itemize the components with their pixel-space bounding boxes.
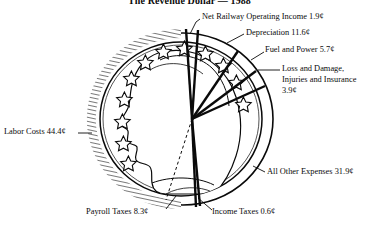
leader-depreciation xyxy=(227,34,244,43)
callout-depreciation: Depreciation 11.6¢ xyxy=(246,28,310,39)
callout-payroll-taxes: Payroll Taxes 8.3¢ xyxy=(86,207,148,218)
coin-pie-chart-illustration xyxy=(0,0,379,229)
leader-fuel-power xyxy=(251,52,264,60)
revenue-dollar-figure: The Revenue Dollar — 1988 xyxy=(0,0,379,229)
callout-loss-and-damage-line1: Loss and Damage, xyxy=(282,64,344,75)
callout-income-taxes: Income Taxes 0.6¢ xyxy=(212,207,275,218)
callout-labor-costs: Labor Costs 44.4¢ xyxy=(4,127,66,138)
callout-loss-and-damage-line3: 3.9¢ xyxy=(282,86,297,97)
callout-net-railway-operating-income: Net Railway Operating Income 1.9¢ xyxy=(202,12,324,23)
callout-all-other-expenses: All Other Expenses 31.9¢ xyxy=(267,167,354,178)
callout-fuel-and-power: Fuel and Power 5.7¢ xyxy=(265,45,334,56)
callout-loss-and-damage-line2: Injuries and Insurance xyxy=(282,75,356,86)
